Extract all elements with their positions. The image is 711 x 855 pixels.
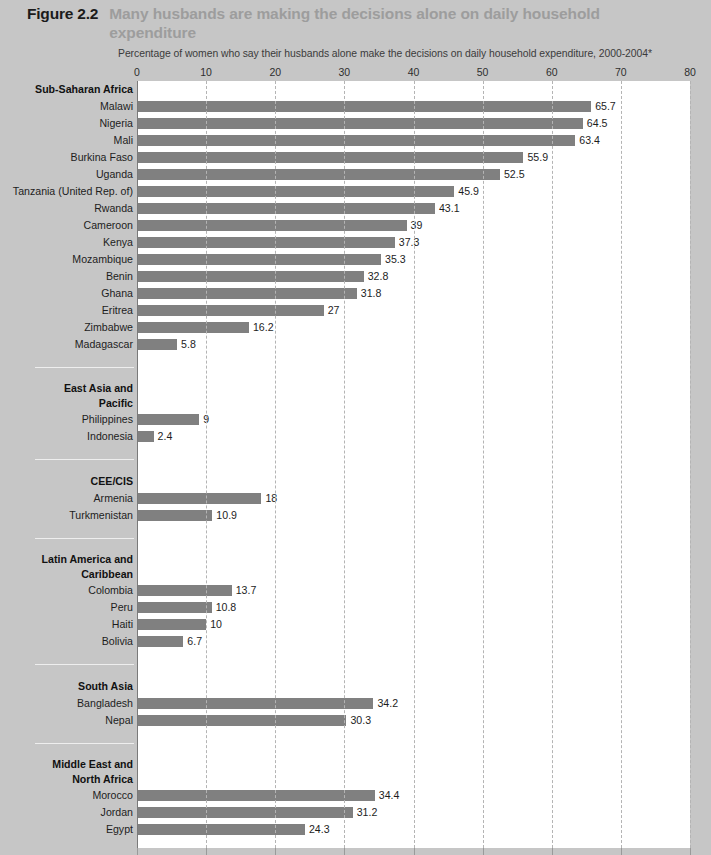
group-header-row: Middle East andNorth Africa — [0, 757, 137, 787]
bar-value-label: 2.4 — [154, 428, 173, 445]
x-axis-tickmark — [621, 848, 622, 855]
group-spacer-label — [0, 838, 137, 848]
group-header-row: South Asia — [0, 678, 137, 695]
bar-value-label: 65.7 — [591, 98, 616, 115]
category-label-row: Mozambique — [0, 251, 137, 268]
category-label: Nepal — [105, 712, 133, 729]
bar — [137, 585, 232, 596]
category-label: Bolivia — [102, 633, 133, 650]
category-label-row: Madagascar — [0, 336, 137, 353]
bar-value-label: 37.3 — [395, 234, 420, 251]
bar — [137, 431, 154, 442]
bar — [137, 322, 249, 333]
category-label: Indonesia — [87, 428, 133, 445]
category-label: Rwanda — [94, 200, 133, 217]
x-axis-tick-label: 50 — [477, 66, 489, 78]
category-label-row: Rwanda — [0, 200, 137, 217]
category-label: Tanzania (United Rep. of) — [13, 183, 133, 200]
bar-value-label: 55.9 — [523, 149, 548, 166]
bar-value-label: 13.7 — [232, 582, 257, 599]
bar — [137, 118, 583, 129]
category-label-row: Tanzania (United Rep. of) — [0, 183, 137, 200]
category-label-row: Eritrea — [0, 302, 137, 319]
category-label-row: Kenya — [0, 234, 137, 251]
category-label-row: Uganda — [0, 166, 137, 183]
x-axis-tickmark — [690, 848, 691, 855]
bar-value-label: 10.9 — [212, 507, 237, 524]
bar — [137, 602, 212, 613]
gridline — [206, 81, 208, 848]
group-separator — [35, 538, 134, 539]
group-spacer-label — [0, 353, 137, 381]
category-label: Malawi — [100, 98, 133, 115]
bar — [137, 101, 591, 112]
bar-value-label: 63.4 — [575, 132, 600, 149]
group-header-line: Latin America and — [42, 552, 133, 567]
group-header-label: South Asia — [78, 678, 133, 695]
gridline — [552, 81, 554, 848]
x-axis-tickmark — [552, 848, 553, 855]
category-label-row: Armenia — [0, 490, 137, 507]
x-axis-tick-label: 10 — [200, 66, 212, 78]
group-header-line: Pacific — [99, 396, 133, 411]
group-header-label: CEE/CIS — [91, 473, 133, 490]
bar — [137, 135, 575, 146]
bar-value-label: 31.2 — [353, 804, 378, 821]
bar — [137, 203, 435, 214]
gridline — [137, 81, 139, 848]
x-axis-tick-label: 20 — [269, 66, 281, 78]
x-axis-tickmark — [344, 848, 345, 855]
category-label-row: Bolivia — [0, 633, 137, 650]
category-label: Armenia — [94, 490, 133, 507]
category-label: Colombia — [88, 582, 133, 599]
bar-value-label: 30.3 — [346, 712, 371, 729]
group-header-label: Sub-Saharan Africa — [35, 81, 133, 98]
x-axis-tick-label: 40 — [408, 66, 420, 78]
bar — [137, 510, 212, 521]
x-axis-tickmark — [483, 848, 484, 855]
bar — [137, 339, 177, 350]
group-spacer-label — [0, 729, 137, 757]
category-label: Bangladesh — [77, 695, 133, 712]
category-label: Benin — [106, 268, 133, 285]
category-label-row: Nepal — [0, 712, 137, 729]
category-label-row: Zimbabwe — [0, 319, 137, 336]
category-label-row: Burkina Faso — [0, 149, 137, 166]
gridline — [621, 81, 623, 848]
group-header-line: Middle East and — [52, 757, 133, 772]
category-label: Cameroon — [84, 217, 133, 234]
bar — [137, 186, 454, 197]
group-header-line: North Africa — [72, 772, 133, 787]
group-separator — [35, 367, 134, 368]
bar-value-label: 34.4 — [375, 787, 400, 804]
category-label-row: Ghana — [0, 285, 137, 302]
category-label-row: Colombia — [0, 582, 137, 599]
bar — [137, 807, 353, 818]
category-label-row: Cameroon — [0, 217, 137, 234]
category-label-row: Bangladesh — [0, 695, 137, 712]
category-label: Burkina Faso — [71, 149, 133, 166]
category-label-row: Egypt — [0, 821, 137, 838]
bar-value-label: 31.8 — [357, 285, 382, 302]
bar — [137, 790, 375, 801]
gridline — [690, 81, 692, 848]
category-label: Philippines — [82, 411, 133, 428]
gridline — [344, 81, 346, 848]
category-label: Kenya — [103, 234, 133, 251]
bar-value-label: 6.7 — [183, 633, 202, 650]
figure-title-block: Figure 2.2 Many husbands are making the … — [27, 4, 687, 42]
group-spacer-label — [0, 445, 137, 473]
bar — [137, 288, 357, 299]
bar — [137, 493, 261, 504]
bar — [137, 271, 364, 282]
category-label-row: Philippines — [0, 411, 137, 428]
bar — [137, 824, 305, 835]
group-separator — [35, 459, 134, 460]
group-header-label: Middle East andNorth Africa — [52, 757, 133, 787]
bar — [137, 169, 500, 180]
plot-area: 65.764.563.455.952.545.943.13937.335.332… — [137, 81, 690, 848]
x-axis-tickmark — [414, 848, 415, 855]
category-label-row: Malawi — [0, 98, 137, 115]
category-label-row: Turkmenistan — [0, 507, 137, 524]
bar-value-label: 35.3 — [381, 251, 406, 268]
